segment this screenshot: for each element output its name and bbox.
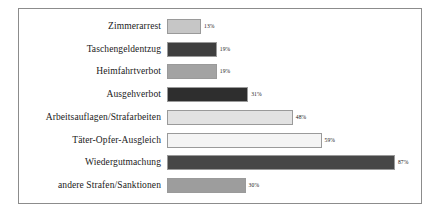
bar-track: 31% (167, 86, 421, 104)
bar-track: 48% (167, 108, 421, 126)
bar-value-taschengeldentzug: 19% (217, 46, 231, 53)
category-label-taschengeldentzug: Taschengeldentzug (19, 44, 167, 55)
bar-track: 59% (167, 131, 421, 149)
chart-frame: Zimmerarrest 13% Taschengeldentzug 19% H… (18, 8, 422, 204)
category-label-taeter-opfer-ausgleich: Täter-Opfer-Ausgleich (19, 135, 167, 146)
category-label-wiedergutmachung: Wiedergutmachung (19, 157, 167, 168)
bar-track: 30% (167, 177, 421, 195)
bar-value-heimfahrtverbot: 19% (217, 68, 231, 75)
bar-taschengeldentzug (167, 42, 217, 57)
bar-chart-plot-area: Zimmerarrest 13% Taschengeldentzug 19% H… (19, 9, 421, 203)
bar-row: andere Strafen/Sanktionen 30% (19, 177, 421, 195)
bar-track: 19% (167, 63, 421, 81)
bar-zimmerarrest (167, 19, 201, 34)
bar-value-ausgehverbot: 31% (248, 91, 262, 98)
bar-value-wiedergutmachung: 87% (395, 159, 409, 166)
category-label-arbeitsauflagen-strafarbeiten: Arbeitsauflagen/Strafarbeiten (19, 112, 167, 123)
bar-track: 13% (167, 17, 421, 35)
bar-value-andere-strafen-sanktionen: 30% (246, 182, 260, 189)
bar-row: Zimmerarrest 13% (19, 17, 421, 35)
bar-heimfahrtverbot (167, 64, 217, 79)
bar-row: Täter-Opfer-Ausgleich 59% (19, 131, 421, 149)
bar-value-zimmerarrest: 13% (201, 23, 215, 30)
bar-value-arbeitsauflagen-strafarbeiten: 48% (293, 114, 307, 121)
bar-row: Heimfahrtverbot 19% (19, 63, 421, 81)
category-label-andere-strafen-sanktionen: andere Strafen/Sanktionen (19, 180, 167, 191)
bar-track: 19% (167, 40, 421, 58)
bar-andere-strafen-sanktionen (167, 178, 246, 193)
bar-row: Ausgehverbot 31% (19, 86, 421, 104)
bar-value-taeter-opfer-ausgleich: 59% (322, 137, 336, 144)
bar-wiedergutmachung (167, 155, 395, 170)
bar-ausgehverbot (167, 87, 248, 102)
bar-row: Taschengeldentzug 19% (19, 40, 421, 58)
category-label-ausgehverbot: Ausgehverbot (19, 89, 167, 100)
bar-arbeitsauflagen-strafarbeiten (167, 110, 293, 125)
bar-taeter-opfer-ausgleich (167, 133, 322, 148)
bar-row: Arbeitsauflagen/Strafarbeiten 48% (19, 108, 421, 126)
bar-track: 87% (167, 154, 421, 172)
bar-row: Wiedergutmachung 87% (19, 154, 421, 172)
category-label-heimfahrtverbot: Heimfahrtverbot (19, 66, 167, 77)
category-label-zimmerarrest: Zimmerarrest (19, 21, 167, 32)
